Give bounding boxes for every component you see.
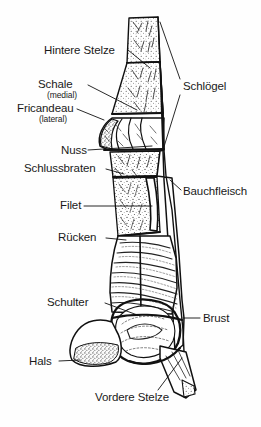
label-bauchfleisch: Bauchfleisch — [183, 185, 247, 197]
leg-joint-line — [112, 113, 163, 114]
round-joint-line — [104, 149, 164, 150]
label-brust: Brust — [203, 312, 229, 324]
leader-fricandeau — [77, 109, 104, 120]
spine-line — [140, 236, 141, 314]
label-hintere-stelze: Hintere Stelze — [44, 44, 115, 56]
label-schale: Schale — [38, 78, 73, 90]
label-schale-medial: (medial) — [47, 91, 77, 100]
hind-shank-region — [127, 17, 160, 63]
neck-speckle — [74, 343, 119, 365]
label-schloegel: Schlögel — [183, 80, 226, 92]
leader-schloegel-top — [160, 22, 180, 79]
label-fricandeau-lateral: (lateral) — [39, 115, 67, 124]
label-vordere-stelze: Vordere Stelze — [95, 391, 169, 403]
carcass-outline — [70, 17, 196, 398]
label-schulter: Schulter — [47, 296, 88, 308]
leader-schloegel-bottom — [163, 95, 180, 150]
label-fricandeau: Fricandeau — [17, 102, 74, 114]
label-filet: Filet — [60, 199, 81, 211]
carcass-diagram: Hintere Stelze Schale (medial) Fricandea… — [0, 0, 261, 427]
label-schlussbraten: Schlussbraten — [24, 162, 96, 174]
label-hals: Hals — [29, 355, 52, 367]
label-nuss: Nuss — [61, 144, 87, 156]
label-ruecken: Rücken — [58, 231, 96, 243]
